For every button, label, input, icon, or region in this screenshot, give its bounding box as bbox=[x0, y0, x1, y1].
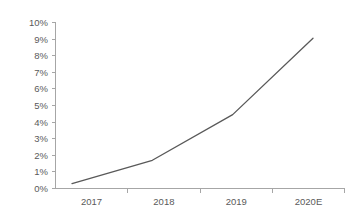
y-tick-label-10: 10% bbox=[29, 17, 49, 28]
x-tick-label-2018: 2018 bbox=[153, 196, 174, 207]
y-tick-label-8: 8% bbox=[34, 50, 48, 61]
x-tick-label-2020e: 2020E bbox=[295, 196, 322, 207]
x-tick-label-2019: 2019 bbox=[226, 196, 247, 207]
y-tick-label-5: 5% bbox=[34, 100, 48, 111]
y-tick-label-0: 0% bbox=[34, 183, 48, 194]
y-tick-label-1: 1% bbox=[34, 166, 48, 177]
y-tick-label-3: 3% bbox=[34, 133, 48, 144]
y-tick-label-9: 9% bbox=[34, 34, 48, 45]
x-tick-label-2017: 2017 bbox=[81, 196, 102, 207]
y-tick-label-7: 7% bbox=[34, 67, 48, 78]
chart-canvas: 10% 9% 8% 7% 6% 5% 4% 3% 2% 1% 0% 2017 2… bbox=[0, 0, 361, 220]
y-tick-label-4: 4% bbox=[34, 117, 48, 128]
y-tick-label-6: 6% bbox=[34, 83, 48, 94]
chart-background bbox=[0, 0, 361, 220]
line-chart: 10% 9% 8% 7% 6% 5% 4% 3% 2% 1% 0% 2017 2… bbox=[0, 0, 361, 220]
y-tick-label-2: 2% bbox=[34, 150, 48, 161]
